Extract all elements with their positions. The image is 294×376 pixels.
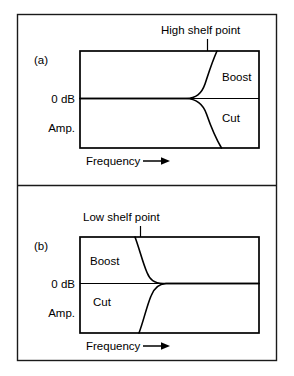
panel-a-plot-box <box>80 51 259 148</box>
panel-b-amp-label: Amp. <box>48 307 75 319</box>
panel-b-cut-label: Cut <box>93 296 112 308</box>
panel-a-zero-db-label: 0 dB <box>51 93 75 105</box>
panel-a-amp-label: Amp. <box>48 122 75 134</box>
panel-b-frequency-label: Frequency <box>86 340 141 352</box>
panel-a-boost-label: Boost <box>222 71 252 83</box>
shelving-response-figure: High shelf point (a) 0 dB Amp. Boost Cut… <box>0 0 294 376</box>
panel-b-id-label: (b) <box>34 240 48 252</box>
panel-b-callout-label: Low shelf point <box>83 211 161 223</box>
panel-a-frequency-label: Frequency <box>86 155 141 167</box>
panel-a-id-label: (a) <box>34 54 48 66</box>
panel-a-callout-label: High shelf point <box>161 24 241 36</box>
panel-b-plot-box <box>80 237 259 333</box>
figure-root: High shelf point (a) 0 dB Amp. Boost Cut… <box>0 0 294 376</box>
panel-a-cut-label: Cut <box>222 112 241 124</box>
panel-b-boost-label: Boost <box>90 255 120 267</box>
panel-b-zero-db-label: 0 dB <box>51 278 75 290</box>
